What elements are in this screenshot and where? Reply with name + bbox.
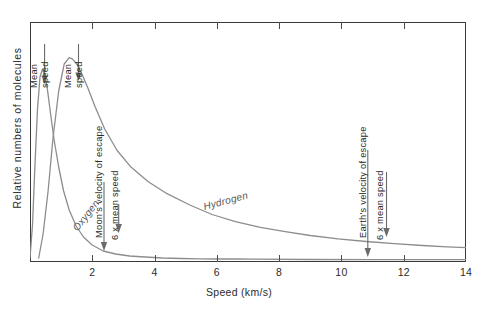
x-tick-label-12: 12 [398,266,410,278]
x-tick-label-14: 14 [460,266,472,278]
x-tick-6 [217,255,218,262]
x-tick-top-4 [155,22,156,29]
label-moon-six-mean: 6 x mean speed [110,170,120,240]
x-tick-top-12 [404,22,405,29]
x-tick-12 [404,255,405,262]
x-tick-label-8: 8 [276,266,282,278]
x-tick-10 [341,255,342,262]
x-tick-top-10 [341,22,342,29]
label-moon-escape: Moon's velocity of escape [94,126,104,238]
x-axis-title: Speed (km/s) [0,286,478,298]
x-tick-top-2 [92,22,93,29]
label-earth-escape: Earth's velocity of escape [358,126,368,238]
x-tick-2 [92,255,93,262]
label-mean-speed-oxygen-line1: Mean [29,64,39,88]
x-tick-top-6 [217,22,218,29]
figure-root: 2 4 6 8 10 12 14 Speed (km/s) Relative n… [0,0,478,309]
x-tick-label-10: 10 [335,266,347,278]
y-axis-title: Relative numbers of molecules [11,28,23,228]
label-earth-six-mean: 6 x mean speed [375,170,385,240]
x-tick-label-6: 6 [214,266,220,278]
x-tick-label-2: 2 [89,266,95,278]
label-mean-speed-oxygen-line2: speed [40,61,50,88]
x-tick-8 [279,255,280,262]
label-mean-speed-hydrogen-line1: Mean [63,64,73,88]
x-tick-label-4: 4 [152,266,158,278]
label-mean-speed-hydrogen-line2: speed [74,61,84,88]
x-tick-top-8 [279,22,280,29]
x-tick-4 [155,255,156,262]
